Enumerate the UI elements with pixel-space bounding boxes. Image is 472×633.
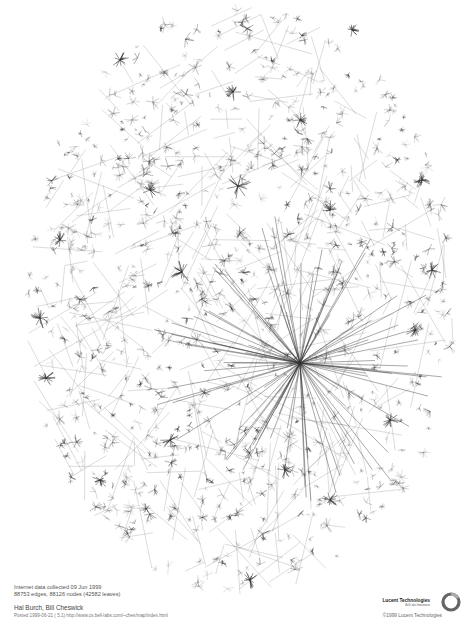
caption-graph-stats: 88753 edges, 88126 nodes (42582 leaves)	[14, 591, 168, 598]
brand-name: Lucent Technologies	[382, 598, 430, 603]
caption-authors: Hal Burch, Bill Cheswick	[14, 604, 168, 611]
internet-map-graph	[0, 0, 472, 633]
brand-tagline: Bell Labs Innovations	[405, 604, 430, 607]
caption-collection-date: Internet data collected 09 Jun 1999	[14, 584, 168, 591]
copyright-text: ©1999 Lucent Technologies	[383, 613, 442, 618]
caption-block: Internet data collected 09 Jun 1999 8875…	[14, 584, 168, 619]
brand-block: Lucent Technologies Bell Labs Innovation…	[314, 591, 464, 631]
lucent-ring-logo-icon	[440, 591, 462, 613]
caption-posted-url: Posted 1999-06-21 ( 5.1) http://www.cs.b…	[14, 612, 168, 619]
